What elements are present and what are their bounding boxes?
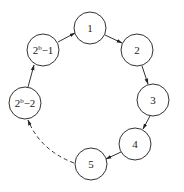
node-1: 1 xyxy=(74,12,106,44)
node-2b-minus-2: 2b−2 xyxy=(9,87,41,119)
edge-2b1-1 xyxy=(58,33,75,42)
node-label: 2 xyxy=(134,44,140,56)
node-2: 2 xyxy=(121,34,153,66)
node-label: 5 xyxy=(88,158,94,170)
edge-3-4 xyxy=(143,116,150,129)
node-3: 3 xyxy=(137,84,169,116)
node-label: 3 xyxy=(150,94,156,106)
edge-1-2 xyxy=(105,35,122,43)
node-label: 1 xyxy=(87,22,93,34)
edge-2b2-2b1 xyxy=(28,65,34,87)
node-4: 4 xyxy=(119,128,151,160)
node-2b-minus-1: 2b−1 xyxy=(27,34,59,66)
edge-5-2b2 xyxy=(28,120,74,163)
edge-2-3 xyxy=(142,66,148,84)
edge-4-5 xyxy=(106,152,121,159)
cycle-diagram: 1 2 3 4 5 2b−2 2b−1 xyxy=(0,0,184,192)
node-5: 5 xyxy=(75,148,107,180)
node-label: 2b−2 xyxy=(15,97,36,109)
diagram-canvas: 1 2 3 4 5 2b−2 2b−1 xyxy=(0,0,184,192)
node-label: 2b−1 xyxy=(33,44,54,56)
node-label: 4 xyxy=(132,138,138,150)
